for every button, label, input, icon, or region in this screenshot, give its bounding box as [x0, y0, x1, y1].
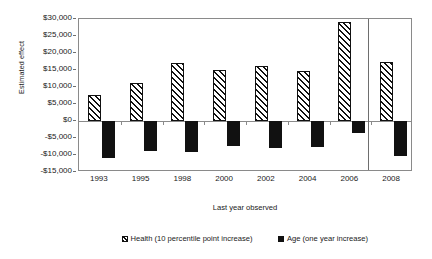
x-axis-tick-label: 2002 [245, 174, 287, 183]
x-axis-tick-mark [204, 121, 205, 125]
chart-legend: Health (10 percentile point increase) Ag… [78, 234, 412, 243]
bar-health-2004 [297, 71, 310, 121]
y-axis-tick-labels: $30,000$25,000$20,000$15,000$10,000$5,00… [18, 0, 76, 259]
legend-label-age: Age (one year increase) [287, 234, 368, 243]
plot-area [78, 18, 412, 171]
x-axis-tick-label: 2008 [370, 174, 412, 183]
y-axis-tick-label: $25,000 [43, 31, 72, 39]
bar-health-2002 [255, 66, 268, 121]
bar-health-2006 [338, 22, 351, 121]
legend-item-age: Age (one year increase) [278, 234, 368, 243]
group-separator-line [368, 19, 369, 170]
legend-swatch-age-icon [278, 236, 284, 242]
y-axis-tick-label: -$15,000 [40, 167, 72, 175]
legend-swatch-health-icon [122, 236, 128, 242]
y-axis-tick-label: $20,000 [43, 48, 72, 56]
bar-health-2000 [213, 70, 226, 121]
x-axis-tick-label: 2000 [203, 174, 245, 183]
y-axis-tick-mark [73, 69, 76, 70]
y-axis-tick-label: $10,000 [43, 82, 72, 90]
y-axis-tick-mark [73, 86, 76, 87]
bar-age-2008 [394, 121, 407, 156]
y-axis-tick-label: $0 [63, 116, 72, 124]
y-axis-tick-label: -$5,000 [45, 133, 72, 141]
bar-health-1998 [171, 63, 184, 121]
x-axis-tick-mark [330, 121, 331, 125]
bar-age-1995 [144, 121, 157, 151]
x-axis-tick-label: 1993 [78, 174, 120, 183]
bar-health-1995 [130, 83, 143, 121]
x-axis-tick-mark [246, 121, 247, 125]
bar-health-2008 [380, 62, 393, 122]
y-axis-tick-mark [73, 137, 76, 138]
y-axis-tick-mark [73, 171, 76, 172]
legend-item-health: Health (10 percentile point increase) [122, 234, 253, 243]
y-axis-tick-label: $30,000 [43, 14, 72, 22]
y-axis-tick-mark [73, 52, 76, 53]
y-axis-tick-mark [73, 154, 76, 155]
bar-age-2000 [227, 121, 240, 146]
y-axis-tick-label: $5,000 [48, 99, 72, 107]
bar-age-1998 [185, 121, 198, 152]
bar-age-1993 [102, 121, 115, 158]
x-axis-tick-label: 2006 [329, 174, 371, 183]
x-axis-tick-mark [163, 121, 164, 125]
bar-age-2006 [352, 121, 365, 133]
bar-age-2004 [311, 121, 324, 147]
x-axis-tick-label: 1998 [162, 174, 204, 183]
x-axis-title: Last year observed [78, 203, 412, 212]
y-axis-tick-mark [73, 103, 76, 104]
y-axis-tick-label: -$10,000 [40, 150, 72, 158]
x-axis-tick-mark [371, 121, 372, 125]
y-axis-tick-mark [73, 18, 76, 19]
y-axis-tick-mark [73, 120, 76, 121]
y-axis-tick-mark [73, 35, 76, 36]
x-axis-tick-label: 1995 [120, 174, 162, 183]
chart-figure: Estimated effect $30,000$25,000$20,000$1… [0, 0, 432, 259]
y-axis-tick-label: $15,000 [43, 65, 72, 73]
x-axis-tick-labels: 19931995199820002002200420062008 [78, 174, 412, 188]
legend-label-health: Health (10 percentile point increase) [130, 234, 252, 243]
bar-health-1993 [88, 95, 101, 121]
x-axis-tick-mark [121, 121, 122, 125]
bar-age-2002 [269, 121, 282, 148]
x-axis-tick-label: 2004 [287, 174, 329, 183]
x-axis-tick-mark [288, 121, 289, 125]
